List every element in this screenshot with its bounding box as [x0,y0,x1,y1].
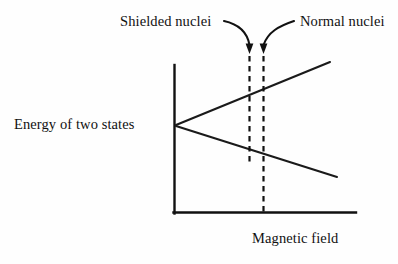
normal-nuclei-arrow [264,21,295,45]
x-axis-label: Magnetic field [252,231,338,246]
lower-state-line [176,126,337,177]
normal-nuclei-arrowhead [260,44,268,55]
callout-label-normal-nuclei: Normal nuclei [300,14,385,29]
shielded-nuclei-arrow [224,21,250,45]
callout-label-shielded-nuclei: Shielded nuclei [120,14,211,29]
upper-state-line [176,62,330,125]
diagram-canvas [0,0,398,264]
shielded-nuclei-arrowhead [246,44,254,55]
y-axis-label: Energy of two states [14,117,135,132]
energy-splitting-figure: Energy of two states Shielded nuclei Nor… [0,0,398,264]
